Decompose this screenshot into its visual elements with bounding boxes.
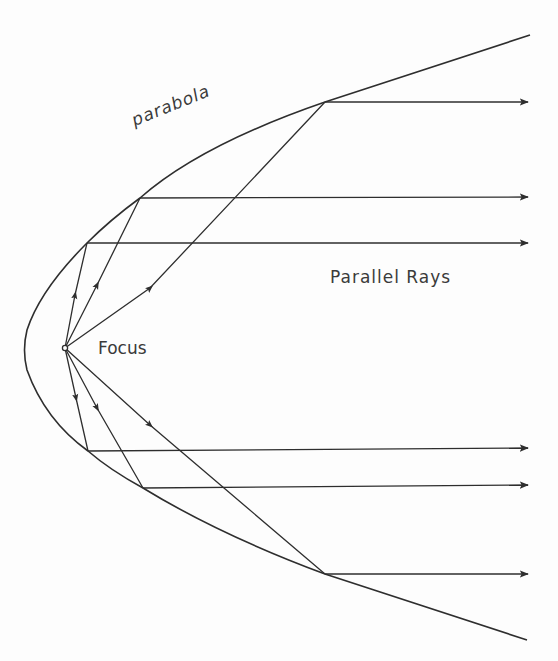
parallel-ray-4 — [88, 448, 528, 451]
parabola-reflection-diagram: parabola Focus Parallel Rays — [0, 0, 558, 661]
focus-point — [62, 345, 67, 350]
focus-label: Focus — [98, 338, 147, 358]
parallel-ray-5 — [143, 485, 528, 488]
parallel-ray-2 — [140, 197, 528, 198]
parallel-rays — [87, 102, 528, 574]
parallel-rays-label: Parallel Rays — [330, 267, 451, 287]
diagram-svg — [0, 0, 558, 661]
